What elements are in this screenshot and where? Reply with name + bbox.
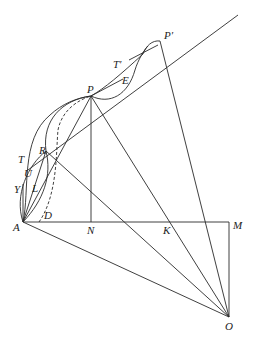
curve-R-P — [45, 96, 91, 151]
tangent-line-TT — [28, 15, 238, 170]
label-T: T — [18, 153, 25, 165]
label-K: K — [162, 224, 171, 236]
label-U: U — [24, 167, 33, 179]
label-A: A — [12, 221, 20, 233]
label-M: M — [232, 219, 243, 231]
label-D: D — [43, 209, 52, 221]
line-R-O — [46, 151, 229, 317]
label-R: R — [38, 144, 46, 156]
line-P-O — [91, 96, 229, 317]
label-E: E — [121, 74, 129, 86]
label-P: P — [86, 83, 94, 95]
curve-to-P-prime — [143, 41, 160, 54]
label-P-prime: P′ — [163, 29, 174, 41]
dashed-curve-D-P — [39, 96, 91, 222]
chord-A-P — [23, 96, 91, 222]
line-A-O — [23, 222, 229, 317]
label-L: L — [31, 182, 38, 194]
label-N: N — [86, 224, 95, 236]
label-O: O — [225, 320, 233, 332]
geometric-diagram: P′ T′ E P T R U Y L D A N K M O — [0, 0, 257, 347]
label-T-prime: T′ — [113, 58, 122, 70]
line-P-prime-O — [160, 41, 229, 317]
